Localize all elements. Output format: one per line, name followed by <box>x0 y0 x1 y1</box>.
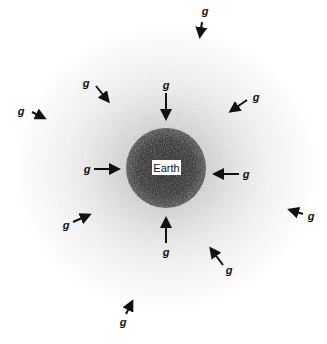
g-label: g <box>62 219 70 231</box>
g-label: g <box>242 168 250 180</box>
earth-label: Earth <box>153 162 179 174</box>
g-label: g <box>17 105 25 117</box>
gravity-field-diagram: Earth gggggggggggg <box>0 0 327 344</box>
g-label: g <box>252 91 260 103</box>
g-label: g <box>82 77 90 89</box>
g-label: g <box>119 316 127 328</box>
g-label: g <box>162 246 170 258</box>
g-label: g <box>83 163 91 175</box>
earth: Earth <box>126 128 206 208</box>
g-label: g <box>162 79 170 91</box>
g-label: g <box>307 210 315 222</box>
g-label: g <box>225 264 233 276</box>
g-label: g <box>201 5 209 17</box>
